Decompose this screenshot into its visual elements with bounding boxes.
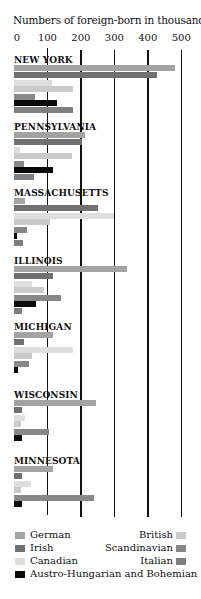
tick-label: 200 [71,32,90,43]
bar-german [14,332,53,338]
bar-german [14,132,85,138]
legend-label: Irish [30,542,54,553]
bar-scandinavian [14,495,94,501]
legend-swatch [176,558,186,565]
bar-german [14,198,25,204]
state-label: ILLINOIS [14,256,63,266]
legend-swatch [176,545,186,552]
state-label: NEW YORK [14,55,73,65]
bar-irish [14,205,98,211]
bar-german [14,266,127,272]
bar-italian [14,107,73,113]
gridline [114,50,115,517]
bar-austro-hungarian [14,167,53,173]
bar-austro-hungarian [14,367,18,373]
bar-british [14,287,44,293]
gridline [181,50,182,517]
legend-label: Scandinavian [105,542,173,553]
legend-swatch [15,558,25,565]
bar-german [14,400,96,406]
bar-italian [14,308,22,314]
legend-swatch [15,571,25,578]
tick-label: 300 [105,32,124,43]
tick-label: 0 [14,32,20,43]
legend-swatch [15,532,25,539]
gridline [147,50,148,517]
bar-austro-hungarian [14,233,17,239]
state-label: MASSACHUSETTS [14,188,108,198]
tick-label: 100 [38,32,57,43]
gridline [47,48,48,515]
legend-label: German [30,529,71,540]
legend-label: Canadian [30,555,78,566]
bar-irish [14,139,82,145]
state-label: WISCONSIN [14,390,78,400]
state-label: PENNSYLVANIA [14,122,96,132]
bar-british [14,219,50,225]
bar-italian [14,240,23,246]
state-label: MICHIGAN [14,322,72,332]
bar-british [14,487,21,493]
bar-german [14,466,53,472]
legend-label: Italian [140,555,173,566]
bar-british [14,86,73,92]
tick-label: 400 [138,32,157,43]
bar-irish [14,339,24,345]
bar-british [14,353,32,359]
state-label: MINNESOTA [14,456,80,466]
tick-label: 500 [172,32,191,43]
chart-title: Numbers of foreign-born in thousands [13,14,201,26]
bar-austro-hungarian [14,301,36,307]
bar-irish [14,407,22,413]
bar-irish [14,473,22,479]
bar-austro-hungarian [14,435,22,441]
legend-label: Austro-Hungarian and Bohemian [30,568,197,579]
gridline [80,50,81,517]
bar-british [14,421,21,427]
bar-british [14,153,72,159]
bar-austro-hungarian [14,501,22,507]
legend-label: British [139,529,173,540]
bar-german [14,65,175,71]
legend-swatch [176,532,186,539]
bar-irish [14,72,157,78]
legend-swatch [15,545,25,552]
bar-austro-hungarian [14,100,57,106]
bar-irish [14,273,53,279]
bar-italian [14,174,34,180]
